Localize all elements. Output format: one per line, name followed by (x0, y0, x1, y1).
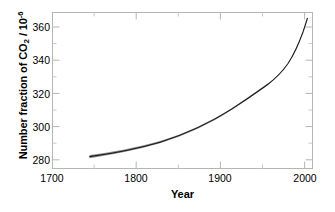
co2-curve (90, 18, 308, 157)
y-minor-ticks (53, 44, 313, 144)
plot-canvas (0, 0, 335, 212)
plot-frame (53, 13, 313, 169)
x-minor-ticks (94, 13, 262, 169)
co2-concentration-chart: Number fraction of CO2 / 10-6 Year 280 3… (0, 0, 335, 212)
x-major-ticks (136, 13, 304, 169)
uncertainty-band (90, 83, 269, 158)
y-major-ticks (53, 27, 313, 160)
